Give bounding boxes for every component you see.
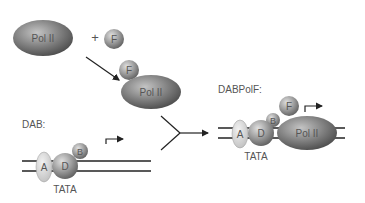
transcription-initiation-diagram: Pol II + F F Pol II DAB: A B D TATA DABP… (0, 0, 365, 203)
dabpolf-complex: A B F D Pol II TATA (218, 96, 345, 162)
tata-label: TATA (244, 151, 268, 162)
transcription-start-arrow (305, 106, 322, 112)
binding-arrow (86, 57, 119, 80)
pol2-label: Pol II (140, 87, 163, 98)
b-label: B (77, 147, 83, 157)
pol2-f-complex: F Pol II (119, 60, 181, 109)
free-pol2: Pol II (13, 20, 73, 56)
pol2-label: Pol II (32, 33, 55, 44)
f-label: F (111, 34, 117, 45)
d-label: D (257, 128, 264, 139)
d-label: D (61, 161, 68, 172)
f-label: F (286, 101, 292, 112)
merge-arrow (161, 116, 208, 150)
b-label: B (270, 116, 276, 126)
f-label: F (126, 65, 132, 76)
dab-title: DAB: (22, 119, 45, 130)
tata-label: TATA (53, 184, 77, 195)
dab-complex: A B D TATA (22, 139, 151, 195)
free-factor-f: F (104, 29, 124, 49)
a-label: A (41, 162, 48, 173)
pol2-label: Pol II (296, 128, 319, 139)
dabpolf-title: DABPolF: (218, 84, 262, 95)
a-label: A (237, 129, 244, 140)
plus-sign: + (91, 30, 99, 45)
transcription-start-arrow (106, 139, 123, 144)
